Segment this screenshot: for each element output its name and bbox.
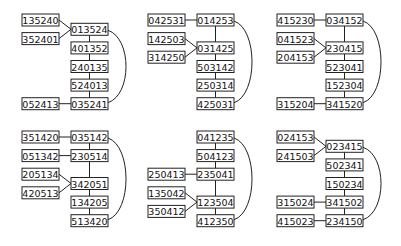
node-label: 342051 xyxy=(71,179,107,190)
graph-node: 230415 xyxy=(326,42,363,54)
graph-node: 204153 xyxy=(277,51,314,63)
node-label: 351420 xyxy=(22,132,58,143)
node-label: 415230 xyxy=(277,15,313,26)
node-label: 230415 xyxy=(326,43,362,54)
graph-node: 342051 xyxy=(71,178,108,190)
graph-node: 014253 xyxy=(197,14,234,26)
graph-node: 524013 xyxy=(71,79,108,91)
node-label: 123504 xyxy=(197,197,233,208)
graph-node: 425031 xyxy=(197,98,234,110)
graph-node: 135042 xyxy=(148,187,185,199)
node-label: 142503 xyxy=(148,34,184,45)
node-label: 420513 xyxy=(22,188,58,199)
graph-node: 250413 xyxy=(148,168,185,180)
graph-arc-edge xyxy=(363,147,381,219)
graph-panel: 1352403524010135244013522401355240130352… xyxy=(22,14,126,110)
node-label: 250413 xyxy=(148,169,184,180)
node-label: 041523 xyxy=(277,34,313,45)
node-label: 504123 xyxy=(197,151,233,162)
graph-node: 513420 xyxy=(71,215,108,227)
graph-node: 412350 xyxy=(197,215,234,227)
graph-node: 135240 xyxy=(22,14,59,26)
node-label: 031425 xyxy=(197,43,233,54)
graph-panel: 0241532415030234155023411502343150243415… xyxy=(277,131,381,227)
graph-node: 142503 xyxy=(148,33,185,45)
node-label: 523041 xyxy=(326,62,362,73)
node-label: 041235 xyxy=(197,132,233,143)
node-label: 241503 xyxy=(277,151,313,162)
graph-node: 023415 xyxy=(326,140,363,152)
node-label: 341502 xyxy=(326,197,362,208)
node-label: 401352 xyxy=(71,43,107,54)
node-label: 042531 xyxy=(148,15,184,26)
graph-node: 052413 xyxy=(22,98,59,110)
graph-edge xyxy=(314,48,326,57)
node-label: 024153 xyxy=(277,132,313,143)
graph-panel: 3514200351420513422305142051344205133420… xyxy=(22,131,126,227)
node-label: 352401 xyxy=(22,34,58,45)
node-label: 034152 xyxy=(326,15,362,26)
graph-node: 502341 xyxy=(326,159,363,171)
node-label: 350412 xyxy=(148,206,184,217)
graph-node: 315024 xyxy=(277,196,314,208)
node-label: 341520 xyxy=(326,99,362,110)
graph-node: 205134 xyxy=(22,168,59,180)
node-label: 052413 xyxy=(22,99,58,110)
graph-arc-edge xyxy=(108,30,126,102)
graph-node: 315204 xyxy=(277,98,314,110)
node-label: 135240 xyxy=(22,15,58,26)
graph-node: 250314 xyxy=(197,79,234,91)
graph-node: 234150 xyxy=(326,215,363,227)
node-label: 150234 xyxy=(326,179,362,190)
graph-node: 350412 xyxy=(148,205,185,217)
node-label: 503142 xyxy=(197,62,233,73)
node-label: 315024 xyxy=(277,197,313,208)
graph-node: 504123 xyxy=(197,150,234,162)
graph-node: 351420 xyxy=(22,131,59,143)
graph-node: 230514 xyxy=(71,150,108,162)
graph-node: 341502 xyxy=(326,196,363,208)
graph-edge xyxy=(59,174,71,183)
graph-node: 523041 xyxy=(326,61,363,73)
node-label: 230514 xyxy=(71,151,107,162)
node-label: 425031 xyxy=(197,99,233,110)
node-label: 023415 xyxy=(326,141,362,152)
graph-edge xyxy=(314,137,326,146)
node-label: 205134 xyxy=(22,169,58,180)
graph-arc-edge xyxy=(234,21,252,103)
graph-node: 035142 xyxy=(71,131,108,143)
graph-edge xyxy=(185,48,197,57)
graph-node: 415230 xyxy=(277,14,314,26)
graph-node: 352401 xyxy=(22,33,59,45)
node-label: 135042 xyxy=(148,188,184,199)
graph-node: 031425 xyxy=(197,42,234,54)
graph-node: 341520 xyxy=(326,98,363,110)
node-label: 035142 xyxy=(71,132,107,143)
graph-node: 241503 xyxy=(277,150,314,162)
node-label: 240135 xyxy=(71,62,107,73)
graph-panel: 0425310142531425033142500314255031422503… xyxy=(148,14,252,110)
graph-edge xyxy=(59,20,71,29)
graph-node: 051342 xyxy=(22,150,59,162)
graph-node: 235041 xyxy=(197,168,234,180)
graph-node: 123504 xyxy=(197,196,234,208)
graph-node: 401352 xyxy=(71,42,108,54)
node-label: 513420 xyxy=(71,216,107,227)
graph-node: 420513 xyxy=(22,187,59,199)
node-label: 235041 xyxy=(197,169,233,180)
node-label: 502341 xyxy=(326,160,362,171)
graph-node: 041235 xyxy=(197,131,234,143)
graph-node: 041523 xyxy=(277,33,314,45)
node-label: 204153 xyxy=(277,52,313,63)
node-label: 412350 xyxy=(197,216,233,227)
graph-arc-edge xyxy=(234,138,252,220)
graph-node: 042531 xyxy=(148,14,185,26)
graph-node: 150234 xyxy=(326,178,363,190)
node-label: 415023 xyxy=(277,216,313,227)
graph-edge xyxy=(185,39,197,48)
graph-node: 152304 xyxy=(326,79,363,91)
graph-node: 134205 xyxy=(71,196,108,208)
node-label: 234150 xyxy=(326,216,362,227)
graph-node: 415023 xyxy=(277,215,314,227)
graph-edge xyxy=(185,193,197,202)
